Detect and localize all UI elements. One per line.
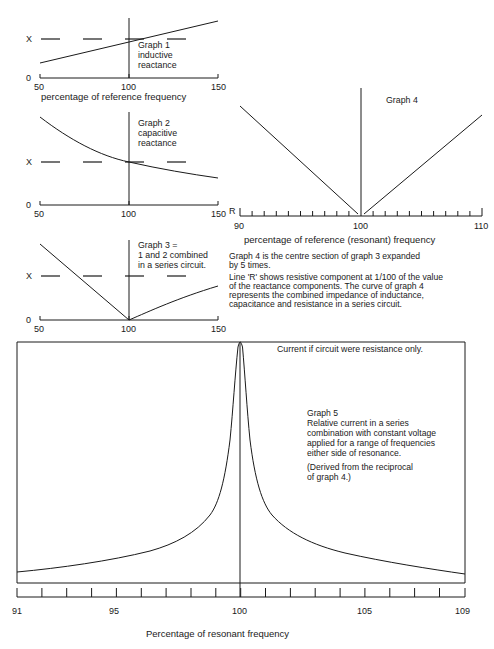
graph-3: X 0 50 100 150 Graph 3 = 1 and 2 combine… xyxy=(26,240,226,334)
graph3-tick-label-2: 150 xyxy=(211,324,226,334)
graph3-title-line2: 1 and 2 combined xyxy=(138,250,208,260)
graph5-desc-5: of graph 4.) xyxy=(307,472,351,482)
graph1-y-label-zero: 0 xyxy=(26,73,31,83)
graph2-tick-label-2: 150 xyxy=(211,209,226,219)
graph5-tick-label-3: 105 xyxy=(357,606,372,616)
graph5-desc-2: applied for a range of frequencies xyxy=(307,438,435,448)
graph5-tick-label-1: 95 xyxy=(109,606,119,616)
graph5-ticks xyxy=(17,588,465,597)
graph5-title: Graph 5 xyxy=(307,408,338,418)
graph5-x-axis-caption: Percentage of resonant frequency xyxy=(146,628,289,639)
graph3-title-line1: Graph 3 = xyxy=(138,240,177,250)
graph2-y-label-x: X xyxy=(26,157,32,167)
graph5-tick-label-0: 91 xyxy=(12,606,22,616)
graph1-y-label-x: X xyxy=(26,34,32,44)
graph4-note-5: capacitance and resistance in a series c… xyxy=(229,299,402,309)
graph-4: R 90 100 110 Graph 4 percentage of refer… xyxy=(229,88,488,309)
figure-canvas: X 0 50 100 150 Graph 1 inductive reactan… xyxy=(0,0,494,649)
graph5-desc-1: combination with constant voltage xyxy=(307,428,436,438)
graph4-resistive-line-label: R xyxy=(229,206,236,216)
graph5-top-line-label: Current if circuit were resistance only. xyxy=(277,344,423,354)
graph3-right-arm xyxy=(129,286,218,320)
figure-page: X 0 50 100 150 Graph 1 inductive reactan… xyxy=(0,0,494,649)
graph2-title-line3: reactance xyxy=(138,138,177,148)
graph2-tick-label-1: 100 xyxy=(121,209,136,219)
graph5-tick-label-4: 109 xyxy=(455,606,470,616)
graph4-title: Graph 4 xyxy=(386,95,418,105)
graph4-right-arm xyxy=(364,115,482,214)
graph2-tick-label-0: 50 xyxy=(34,209,44,219)
graph4-tick-label-1: 100 xyxy=(353,221,368,231)
graph-5: Current if circuit were resistance only.… xyxy=(12,342,470,639)
graph5-desc-4: (Derived from the reciprocal xyxy=(307,462,413,472)
graph2-title-line1: Graph 2 xyxy=(138,118,170,128)
graph4-left-arm xyxy=(240,106,358,214)
graph3-title-line3: in a series circuit. xyxy=(138,260,206,270)
graph-1: X 0 50 100 150 Graph 1 inductive reactan… xyxy=(26,18,226,102)
graph4-notes: Graph 4 is the centre section of graph 3… xyxy=(229,251,443,309)
graph5-desc-3: either side of resonance. xyxy=(307,448,401,458)
graph1-title-line2: inductive xyxy=(138,50,173,60)
graph-2: X 0 50 100 150 Graph 2 capacitive reacta… xyxy=(26,112,226,219)
graph3-y-label-x: X xyxy=(26,271,32,281)
graph4-x-axis-caption: percentage of reference (resonant) frequ… xyxy=(244,234,435,245)
graph3-y-label-zero: 0 xyxy=(26,315,31,325)
graph3-tick-label-0: 50 xyxy=(34,324,44,334)
graph5-desc-0: Relative current in a series xyxy=(307,418,409,428)
graph3-left-arm xyxy=(40,244,129,320)
graph4-note-1: by 5 times. xyxy=(229,260,271,270)
graph4-tick-label-2: 110 xyxy=(474,221,488,231)
graph1-tick-label-2: 150 xyxy=(211,82,226,92)
graph3-tick-label-1: 100 xyxy=(121,324,136,334)
graph1-x-axis-caption: percentage of reference frequency xyxy=(41,91,186,102)
graph4-tick-label-0: 90 xyxy=(234,221,244,231)
graph2-title-line2: capacitive xyxy=(138,128,177,138)
graph5-tick-label-2: 100 xyxy=(232,606,247,616)
graph5-resonance-curve xyxy=(17,342,465,574)
graph2-y-label-zero: 0 xyxy=(26,200,31,210)
graph1-title-line3: reactance xyxy=(138,60,177,70)
graph1-title-line1: Graph 1 xyxy=(138,40,170,50)
graph5-description: Graph 5 Relative current in a series com… xyxy=(307,408,436,482)
